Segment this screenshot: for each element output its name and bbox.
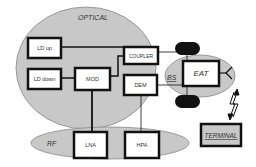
bs-label: BS [167,74,177,81]
lna-label: LNA [85,142,96,148]
wireless-link-arrows [228,89,239,120]
terminal-label: TERMINAL [205,132,238,139]
ld-up-label: LD up [37,45,52,51]
optical-label: OPTICAL [78,14,108,21]
coupler-label: COUPLER [129,53,154,59]
connector-pill-bottom [175,95,200,108]
block-coupler: COUPLER [124,47,158,64]
eat-label: EAT [194,69,210,78]
block-eat: EAT [183,61,219,86]
ld-down-label: LD down [34,76,56,82]
connector-pill-top [175,42,200,55]
hpa-label: HPA [137,142,148,148]
block-dem: DEM [124,75,157,95]
system-diagram: OPTICAL RF BS LD up LD down MOD COUPLER [0,0,256,167]
block-ld-up: LD up [28,38,61,58]
block-mod: MOD [75,68,110,90]
block-lna: LNA [74,132,107,158]
block-terminal: TERMINAL [201,124,241,146]
rf-label: RF [47,140,57,147]
arrow-down-icon [228,114,233,120]
dem-label: DEM [134,82,147,88]
mod-label: MOD [86,76,99,82]
arrow-up-icon [234,89,239,95]
block-hpa: HPA [125,132,159,158]
block-ld-down: LD down [28,69,61,89]
